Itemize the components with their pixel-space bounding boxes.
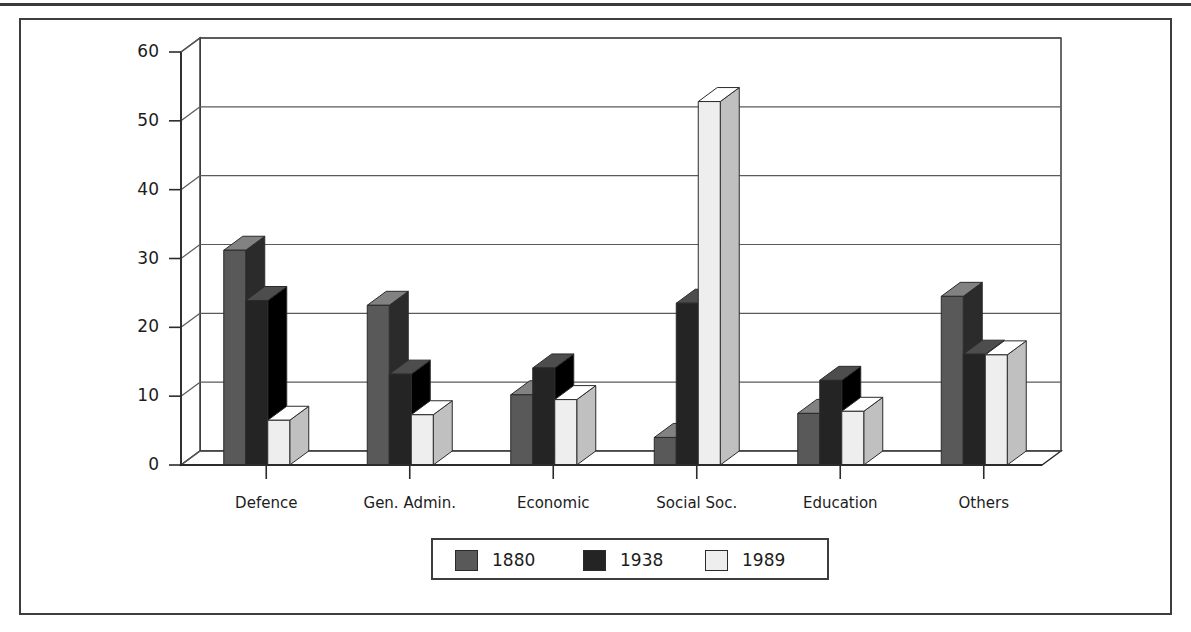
x-axis-tick-label: Social Soc. [617, 495, 777, 511]
y-axis-tick-label: 50 [115, 112, 159, 129]
y-axis-tick-label: 40 [115, 181, 159, 198]
y-axis-tick-label: 10 [115, 387, 159, 404]
top-horizontal-rule [0, 3, 1191, 6]
bar-chart: 0102030405060 DefenceGen. Admin.Economic… [21, 20, 1174, 617]
bar [842, 397, 883, 465]
chart-legend: 188019381989 [431, 538, 829, 580]
bar [985, 341, 1026, 465]
y-axis-tick-label: 0 [115, 456, 159, 473]
y-axis-tick-label: 60 [115, 43, 159, 60]
legend-swatch-1938 [583, 550, 606, 571]
y-axis-tick-label: 20 [115, 318, 159, 335]
legend-swatch-1880 [455, 550, 478, 571]
x-axis-tick-label: Gen. Admin. [330, 495, 490, 511]
legend-label-1880: 1880 [492, 550, 535, 570]
x-axis-tick-label: Education [760, 495, 920, 511]
legend-label-1938: 1938 [620, 550, 663, 570]
y-axis-tick-label: 30 [115, 250, 159, 267]
x-axis-tick-label: Economic [473, 495, 633, 511]
x-axis-tick-label: Others [904, 495, 1064, 511]
legend-entry: 1938 [583, 549, 663, 571]
bar [411, 401, 452, 465]
legend-entry: 1880 [455, 549, 535, 571]
bar [698, 88, 739, 465]
legend-swatch-1989 [705, 550, 728, 571]
figure-frame: 0102030405060 DefenceGen. Admin.Economic… [19, 18, 1172, 615]
chart-canvas [21, 20, 1174, 617]
legend-entry: 1989 [705, 549, 785, 571]
bar [555, 386, 596, 465]
legend-label-1989: 1989 [742, 550, 785, 570]
x-axis-tick-label: Defence [186, 495, 346, 511]
